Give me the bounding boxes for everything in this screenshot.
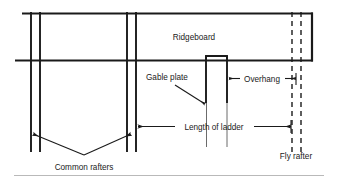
gable-end-rafters-group [127,12,136,152]
gable-plate-callout: Gable plate [146,73,205,104]
overhang-dimension: Overhang [229,73,296,85]
ridgeboard-label: Ridgeboard [173,33,216,42]
common-rafters-label: Common rafters [55,163,114,172]
overhang-label: Overhang [244,75,280,84]
gable-plate-block [206,56,227,147]
diagram-canvas: Ridgeboard Gable plate Overhang Length o… [0,0,338,179]
length-of-ladder-label: Length of ladder [184,123,243,132]
common-rafters-callout: Common rafters [33,134,131,172]
length-of-ladder-dimension: Length of ladder [138,120,291,133]
common-rafters-group [31,12,40,152]
common-rafters-leader-right [84,134,131,155]
framing-structure [15,13,313,62]
gable-plate-leader-line [175,85,205,104]
roof-ladder-framing-diagram: Ridgeboard Gable plate Overhang Length o… [0,0,338,179]
gable-plate-label: Gable plate [146,73,188,82]
fly-rafter-label: Fly rafter [280,152,313,161]
